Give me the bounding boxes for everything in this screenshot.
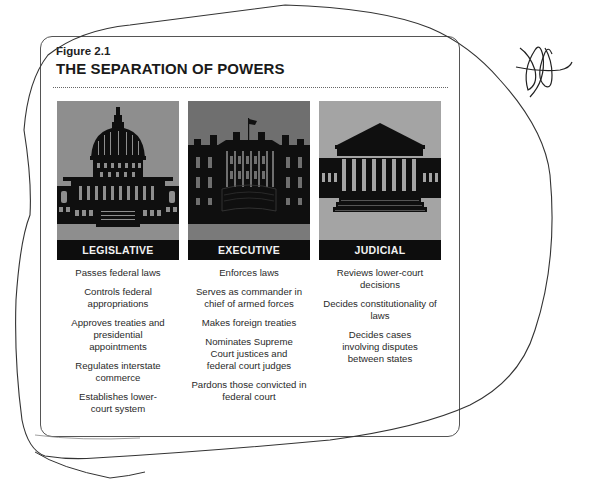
capitol-building-icon xyxy=(57,101,179,240)
panel-judicial: JUDICIAL xyxy=(319,101,441,260)
list-item: Decides cases involving disputes between… xyxy=(310,329,450,365)
list-item: Nominates Supreme Court justices and fed… xyxy=(179,336,319,372)
branch-label-judicial: JUDICIAL xyxy=(319,240,441,260)
panel-legislative: LEGISLATIVE xyxy=(57,101,179,260)
figure-label: Figure 2.1 xyxy=(56,45,110,57)
list-item: Reviews lower-court decisions xyxy=(310,267,450,291)
judicial-powers-list: Reviews lower-court decisions Decides co… xyxy=(310,267,450,372)
list-item: Makes foreign treaties xyxy=(179,317,319,329)
white-house-icon xyxy=(188,101,310,240)
list-item: Establishes lower-court system xyxy=(48,391,188,415)
handwritten-initials-icon xyxy=(516,47,572,97)
list-item: Regulates interstate commerce xyxy=(48,360,188,384)
list-item: Pardons those convicted in federal court xyxy=(179,379,319,403)
list-item: Decides constitutionality of laws xyxy=(310,298,450,322)
supreme-court-icon xyxy=(319,101,441,240)
list-item: Enforces laws xyxy=(179,267,319,279)
list-item: Controls federal appropriations xyxy=(48,286,188,310)
branch-label-legislative: LEGISLATIVE xyxy=(57,240,179,260)
figure-title: THE SEPARATION OF POWERS xyxy=(56,60,285,77)
legislative-powers-list: Passes federal laws Controls federal app… xyxy=(48,267,188,422)
list-item: Approves treaties and presidential appoi… xyxy=(48,317,188,353)
list-item: Serves as commander in chief of armed fo… xyxy=(179,286,319,310)
dotted-divider xyxy=(53,87,448,88)
list-item: Passes federal laws xyxy=(48,267,188,279)
branch-label-executive: EXECUTIVE xyxy=(188,240,310,260)
executive-powers-list: Enforces laws Serves as commander in chi… xyxy=(179,267,319,410)
panel-executive: EXECUTIVE xyxy=(188,101,310,260)
